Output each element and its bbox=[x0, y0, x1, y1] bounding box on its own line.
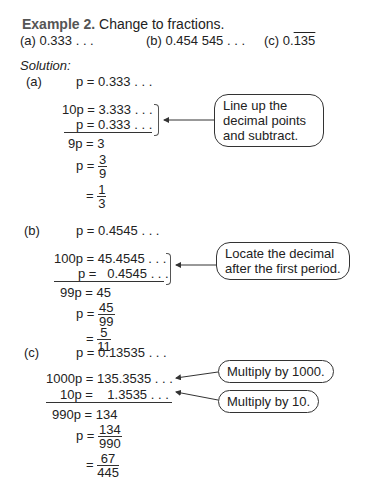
arrow-lines bbox=[0, 0, 369, 486]
